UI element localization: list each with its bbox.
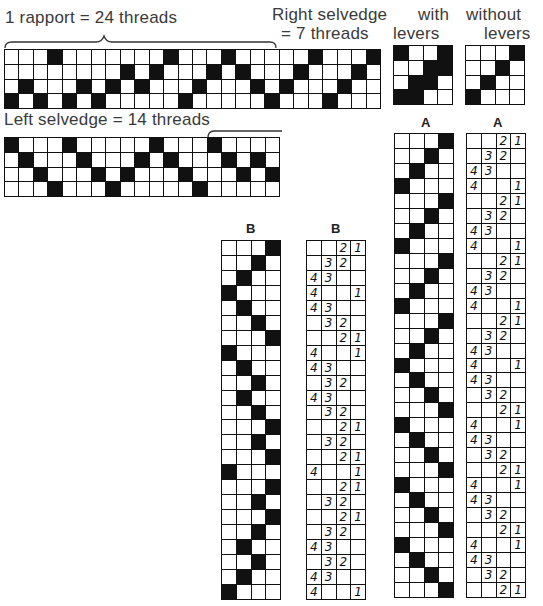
numbered-cell bbox=[497, 493, 511, 507]
numbered-cell: 3 bbox=[322, 361, 336, 375]
grid-cell bbox=[395, 418, 409, 432]
grid-cell bbox=[193, 80, 206, 94]
numbered-cell: 1 bbox=[511, 239, 525, 253]
lever-number: 1 bbox=[511, 418, 525, 432]
grid-cell bbox=[510, 76, 524, 90]
grid-cell bbox=[179, 50, 192, 64]
grid-cell bbox=[395, 344, 409, 358]
numbered-cell: 3 bbox=[482, 164, 496, 178]
numbered-cell bbox=[497, 164, 511, 178]
numbered-cell: 4 bbox=[307, 540, 321, 554]
numbered-cell: 2 bbox=[337, 256, 351, 270]
grid-cell bbox=[164, 50, 177, 64]
grid-cell bbox=[265, 80, 278, 94]
grid-cell bbox=[395, 149, 409, 163]
grid-cell bbox=[252, 510, 266, 524]
lever-number: 2 bbox=[337, 555, 351, 569]
numbered-cell bbox=[482, 403, 496, 417]
grid-cell bbox=[48, 80, 61, 94]
lever-number: 1 bbox=[351, 585, 365, 599]
grid-cell bbox=[439, 463, 453, 477]
numbered-cell: 3 bbox=[322, 435, 336, 449]
lever-number: 2 bbox=[497, 329, 511, 343]
grid-cell bbox=[237, 450, 251, 464]
lever-number: 4 bbox=[467, 299, 481, 313]
grid-cell bbox=[496, 61, 510, 75]
numbered-cell: 2 bbox=[497, 508, 511, 522]
numbered-cell: 2 bbox=[497, 463, 511, 477]
grid-cell bbox=[179, 138, 192, 152]
grid-cell bbox=[481, 90, 495, 104]
lever-number: 3 bbox=[322, 361, 336, 375]
grid-cell bbox=[252, 555, 266, 569]
grid-cell bbox=[121, 80, 134, 94]
grid-cell bbox=[266, 331, 280, 345]
grid-cell bbox=[252, 256, 266, 270]
grid-cell bbox=[410, 583, 424, 597]
grid-cell bbox=[410, 448, 424, 462]
grid-cell bbox=[77, 94, 90, 108]
grid-cell bbox=[394, 61, 408, 75]
with-levers-label-top: with bbox=[418, 6, 449, 24]
grid-cell bbox=[150, 168, 163, 182]
grid-cell bbox=[410, 508, 424, 522]
numbered-cell: 2 bbox=[497, 568, 511, 582]
grid-cell bbox=[77, 153, 90, 167]
numbered-cell: 4 bbox=[307, 361, 321, 375]
grid-cell bbox=[252, 585, 266, 599]
numbered-cell bbox=[467, 583, 481, 597]
grid-cell bbox=[193, 65, 206, 79]
column-a-with-levers-heading: A bbox=[421, 115, 430, 130]
grid-cell bbox=[395, 359, 409, 373]
grid-cell bbox=[193, 153, 206, 167]
numbered-cell bbox=[511, 388, 525, 402]
grid-cell bbox=[410, 553, 424, 567]
grid-cell bbox=[237, 153, 250, 167]
lever-number: 1 bbox=[511, 239, 525, 253]
lever-number: 2 bbox=[337, 376, 351, 390]
grid-cell bbox=[510, 46, 524, 60]
grid-cell bbox=[425, 403, 439, 417]
grid-cell bbox=[48, 168, 61, 182]
grid-cell bbox=[164, 80, 177, 94]
lever-number: 2 bbox=[497, 523, 511, 537]
numbered-cell: 3 bbox=[482, 329, 496, 343]
grid-cell bbox=[395, 433, 409, 447]
numbered-cell bbox=[337, 271, 351, 285]
grid-cell bbox=[208, 138, 221, 152]
numbered-cell bbox=[307, 376, 321, 390]
grid-cell bbox=[439, 553, 453, 567]
lever-number: 4 bbox=[307, 391, 321, 405]
grid-cell bbox=[280, 65, 293, 79]
grid-cell bbox=[266, 525, 280, 539]
numbered-cell: 1 bbox=[351, 510, 365, 524]
lever-number: 1 bbox=[351, 241, 365, 255]
numbered-cell: 1 bbox=[351, 585, 365, 599]
numbered-cell: 2 bbox=[337, 495, 351, 509]
grid-cell bbox=[394, 76, 408, 90]
numbered-cell: 3 bbox=[322, 391, 336, 405]
grid-cell bbox=[252, 391, 266, 405]
lever-number: 2 bbox=[337, 316, 351, 330]
numbered-cell: 1 bbox=[511, 254, 525, 268]
grid-cell bbox=[222, 256, 236, 270]
numbered-cell: 4 bbox=[307, 465, 321, 479]
numbered-cell bbox=[467, 448, 481, 462]
grid-cell bbox=[77, 65, 90, 79]
grid-cell bbox=[193, 94, 206, 108]
numbered-cell bbox=[322, 331, 336, 345]
grid-cell bbox=[222, 138, 235, 152]
grid-cell bbox=[439, 239, 453, 253]
grid-cell bbox=[294, 65, 307, 79]
right-selvedge-count-label: = 7 threads bbox=[281, 25, 369, 43]
grid-cell bbox=[106, 138, 119, 152]
grid-cell bbox=[425, 149, 439, 163]
numbered-cell: 3 bbox=[322, 271, 336, 285]
lever-number: 2 bbox=[337, 480, 351, 494]
grid-cell bbox=[352, 94, 365, 108]
numbered-cell: 4 bbox=[307, 271, 321, 285]
grid-cell bbox=[439, 329, 453, 343]
lever-number: 3 bbox=[482, 373, 496, 387]
lever-number: 4 bbox=[307, 570, 321, 584]
numbered-cell: 4 bbox=[467, 553, 481, 567]
